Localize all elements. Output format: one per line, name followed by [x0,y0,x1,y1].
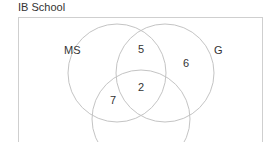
region-value: 7 [110,94,116,106]
region-value: 6 [183,57,189,69]
set-circle-g [116,24,214,122]
universal-set-box [19,18,263,143]
region-value: 2 [138,81,144,93]
set-label-ms: MS [64,44,81,56]
region-value: 5 [138,43,144,55]
set-label-g: G [214,44,223,56]
venn-diagram: MS G 5 6 2 7 [0,0,270,142]
set-circle-ms [68,24,166,122]
